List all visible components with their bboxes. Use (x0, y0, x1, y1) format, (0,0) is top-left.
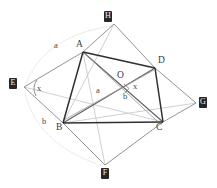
edge-C-F (105, 122, 163, 165)
line-B-to-G (63, 103, 196, 123)
outer-point-label-H: H (104, 11, 112, 22)
geometry-svg: A D O B C a a b b x x (0, 0, 217, 188)
side-B-C (63, 122, 163, 123)
vertex-label-D: D (158, 55, 165, 65)
vertex-label-O: O (117, 70, 124, 80)
arc-b-E-to-F (25, 92, 103, 166)
edge-F-B (63, 123, 105, 165)
label-b-inner: b (123, 91, 127, 101)
label-a-inner: a (96, 85, 100, 95)
label-a-outer: a (54, 40, 58, 50)
side-D-C (155, 68, 163, 122)
geometry-diagram-canvas: A D O B C a a b b x x H E G F (0, 0, 217, 188)
outer-point-label-G: G (199, 97, 207, 108)
angle-marks (34, 80, 129, 96)
construction-arcs (25, 26, 112, 166)
label-x-at-O: x (133, 81, 138, 91)
edge-H-D (114, 24, 155, 68)
edge-D-G (155, 68, 196, 103)
side-A-D (83, 52, 155, 68)
label-b-outer: b (42, 116, 46, 126)
vertex-label-A: A (76, 39, 83, 49)
outer-point-label-F: F (101, 168, 109, 179)
vertex-label-B: B (56, 122, 62, 132)
outer-point-label-E: E (9, 78, 17, 89)
vertex-label-C: C (156, 122, 162, 132)
